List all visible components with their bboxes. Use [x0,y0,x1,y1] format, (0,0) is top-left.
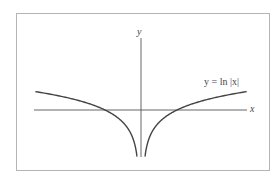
x-axis-label: x [250,103,254,114]
plot-frame [17,14,270,171]
y-axis-label: y [137,26,141,37]
curve-label: y = ln |x| [204,76,239,87]
